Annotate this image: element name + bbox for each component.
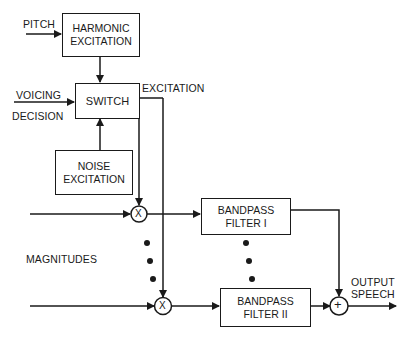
- output-label-line2: SPEECH: [351, 288, 395, 300]
- magnitudes-label: MAGNITUDES: [26, 253, 97, 265]
- decision-label: DECISION: [12, 110, 64, 122]
- bp2-line2: FILTER II: [243, 308, 287, 321]
- sum-glyph: +: [334, 299, 342, 311]
- multiply-glyph-2: X: [159, 300, 166, 312]
- noise-excitation-block: NOISE EXCITATION: [55, 150, 133, 195]
- bandpass-filter-2-block: BANDPASS FILTER II: [220, 288, 311, 327]
- noise-line2: EXCITATION: [63, 173, 124, 186]
- bp1-line2: FILTER I: [225, 217, 266, 230]
- harmonic-excitation-block: HARMONIC EXCITATION: [62, 13, 140, 57]
- noise-line1: NOISE: [78, 160, 111, 173]
- bp2-line1: BANDPASS: [237, 295, 293, 308]
- bp1-to-sum-arrow: [290, 210, 339, 296]
- bp1-line1: BANDPASS: [218, 204, 274, 217]
- switch-label: SWITCH: [86, 95, 129, 108]
- excitation-label: EXCITATION: [142, 82, 204, 94]
- multiply-glyph-1: X: [135, 208, 142, 220]
- harmonic-line1: HARMONIC: [72, 22, 129, 35]
- bandpass-filter-1-block: BANDPASS FILTER I: [201, 198, 291, 235]
- harmonic-line2: EXCITATION: [70, 35, 131, 48]
- output-label-line1: OUTPUT: [351, 276, 395, 288]
- voicing-label: VOICING: [16, 89, 61, 101]
- pitch-label: PITCH: [23, 18, 55, 30]
- switch-block: SWITCH: [75, 83, 140, 119]
- ellipsis-dots: [144, 240, 255, 282]
